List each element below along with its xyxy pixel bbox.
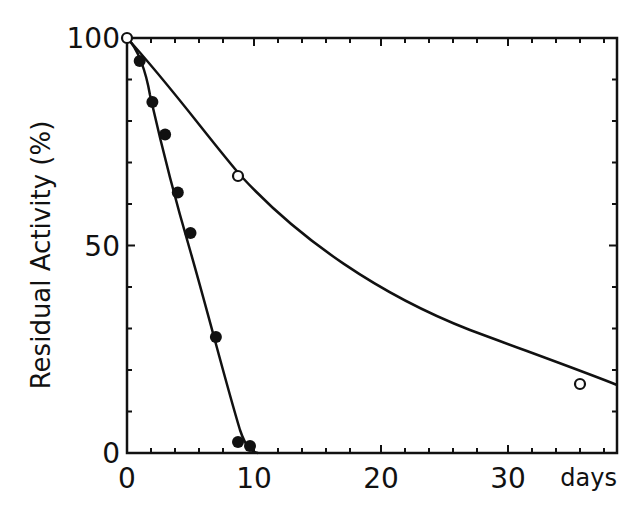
curve-open-series bbox=[127, 38, 617, 385]
x-tick-label-20: 20 bbox=[363, 462, 399, 495]
curve-filled-series bbox=[127, 38, 258, 453]
plot-frame bbox=[127, 38, 617, 453]
open-markers bbox=[122, 33, 585, 389]
filled-markers bbox=[134, 55, 256, 452]
x-ticks bbox=[151, 38, 604, 453]
y-axis-title: Residual Activity (%) bbox=[26, 121, 56, 390]
x-tick-label-0: 0 bbox=[118, 462, 136, 495]
y-tick-label-100: 100 bbox=[67, 22, 120, 55]
y-tick-label-50: 50 bbox=[84, 230, 120, 263]
x-tick-label-30: 30 bbox=[490, 462, 526, 495]
x-tick-label-10: 10 bbox=[236, 462, 272, 495]
x-axis-unit: days bbox=[560, 464, 617, 492]
chart-canvas: 100 50 0 0 10 20 30 days Residual Activi… bbox=[0, 0, 643, 510]
y-ticks bbox=[127, 80, 617, 412]
